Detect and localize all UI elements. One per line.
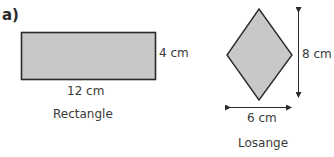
geometry-figure xyxy=(0,0,334,157)
rectangle-height-label: 4 cm xyxy=(159,46,189,60)
rhombus-name: Losange xyxy=(238,136,288,150)
rectangle-width-label: 12 cm xyxy=(67,84,104,98)
rectangle-shape xyxy=(22,33,156,80)
rectangle-name: Rectangle xyxy=(53,107,113,121)
rhombus-height-label: 8 cm xyxy=(302,47,332,61)
rhombus-width-label: 6 cm xyxy=(247,111,277,125)
rhombus-shape xyxy=(227,9,292,100)
